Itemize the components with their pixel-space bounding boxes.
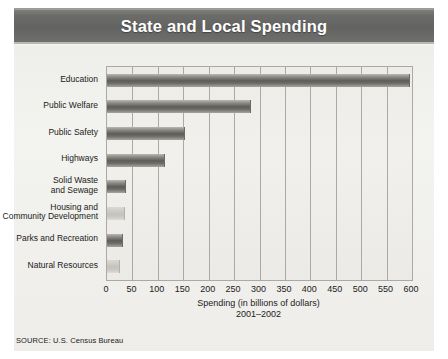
x-tick-label: 550 [378,284,393,294]
category-label: Natural Resources [28,261,98,271]
x-tick-label: 0 [103,284,108,294]
bar [107,100,251,113]
category-label: Solid Wasteand Sewage [51,176,98,195]
x-tick-label: 50 [126,284,136,294]
bar [107,74,410,87]
x-tick-label: 100 [149,284,164,294]
category-label: Highways [61,154,98,164]
page-title: State and Local Spending [121,17,328,36]
bar [107,207,125,220]
x-tick-label: 350 [276,284,291,294]
bar [107,180,126,193]
bar [107,234,123,247]
source-note: SOURCE: U.S. Census Bureau [16,336,123,345]
x-tick-label: 150 [175,284,190,294]
category-label: Public Safety [48,128,98,138]
bar-chart: EducationPublic WelfarePublic SafetyHigh… [14,52,434,337]
x-axis-title-period: 2001–2002 [106,309,411,320]
category-label: Education [60,75,98,85]
value-axis-labels: 050100150200250300350400450500550600 [106,284,411,298]
category-label: Housing andCommunity Development [3,203,98,222]
bar [107,260,120,273]
x-tick-label: 300 [251,284,266,294]
bar [107,127,185,140]
x-tick-label: 600 [403,284,418,294]
x-tick-label: 450 [327,284,342,294]
bar-series [107,67,412,280]
x-tick-label: 200 [200,284,215,294]
bar [107,154,165,167]
plot-area [106,66,413,281]
x-axis-title: Spending (in billions of dollars) 2001–2… [106,298,411,320]
x-tick-label: 400 [302,284,317,294]
category-axis-labels: EducationPublic WelfarePublic SafetyHigh… [14,66,102,279]
x-tick-label: 500 [353,284,368,294]
chart-figure: State and Local Spending EducationPublic… [0,0,448,359]
x-axis-title-main: Spending (in billions of dollars) [197,298,320,308]
x-tick-label: 250 [226,284,241,294]
chart-title-bar: State and Local Spending [14,8,434,44]
category-label: Parks and Recreation [16,234,98,244]
category-label: Public Welfare [43,101,98,111]
